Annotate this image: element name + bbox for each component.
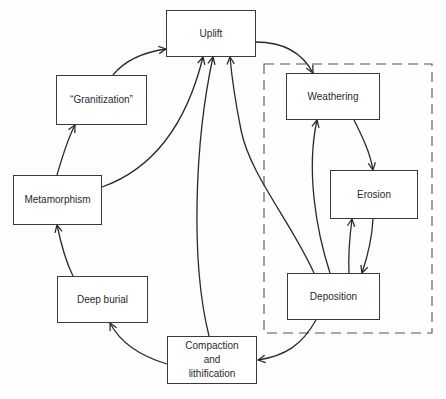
node-label: Weathering xyxy=(308,90,359,104)
arrow-compaction-to-uplift xyxy=(197,57,213,336)
arrow-granitization-to-uplift xyxy=(113,49,166,75)
node-deep-burial: Deep burial xyxy=(57,276,148,323)
arrow-weathering-to-erosion xyxy=(354,120,373,170)
node-label: Erosion xyxy=(357,188,391,202)
rock-cycle-diagram: Uplift “Granitization” Metamorphism Deep… xyxy=(0,0,446,399)
node-compaction-lithification: Compaction and lithification xyxy=(167,336,257,384)
node-erosion: Erosion xyxy=(330,170,418,219)
node-granitization: “Granitization” xyxy=(56,75,147,125)
node-weathering: Weathering xyxy=(286,73,380,120)
node-uplift: Uplift xyxy=(166,10,256,57)
node-deposition: Deposition xyxy=(287,273,380,320)
arrow-compaction-to-deep-burial xyxy=(110,323,167,364)
node-label: “Granitization” xyxy=(70,93,133,107)
arrow-deep-burial-to-metamorphism xyxy=(57,225,73,276)
arrow-erosion-to-deposition xyxy=(362,219,373,273)
node-label: Uplift xyxy=(200,27,223,41)
node-label: Metamorphism xyxy=(24,193,90,207)
node-metamorphism: Metamorphism xyxy=(13,175,102,225)
node-label: Deep burial xyxy=(77,293,128,307)
arrow-deposition-to-compaction xyxy=(258,320,316,360)
arrow-metamorphism-to-granitization xyxy=(57,125,75,175)
node-label: Compaction and lithification xyxy=(185,339,238,381)
arrow-deposition-to-erosion xyxy=(349,219,352,273)
arrow-deposition-to-weathering xyxy=(312,120,330,273)
node-label: Deposition xyxy=(310,290,357,304)
